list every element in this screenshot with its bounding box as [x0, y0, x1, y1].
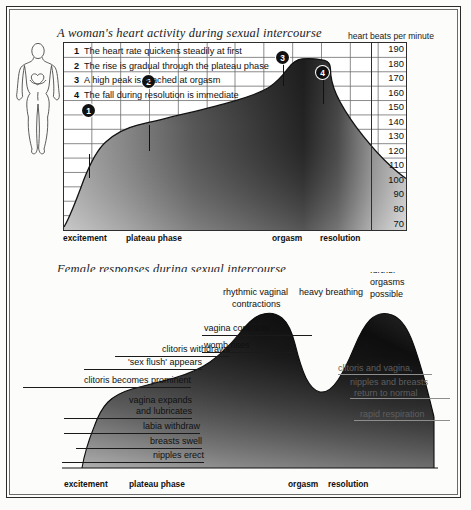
y-tick-100: 100	[388, 175, 404, 185]
anno-further-line3: possible	[370, 289, 403, 300]
anno-vagina-contracts: vagina contracts	[204, 323, 270, 334]
anno-nipples-erect: nipples erect	[62, 450, 204, 461]
bottom-phase-resolution: resolution	[328, 479, 368, 489]
legend-text-2: The rise is gradual through the plateau …	[84, 61, 269, 71]
anno-further-line2: orgasms	[370, 277, 405, 288]
callout-marker-4[interactable]: 4	[316, 66, 329, 79]
rule-sex-flush	[84, 369, 202, 370]
infographic-page: A woman's heart activity during sexual i…	[0, 0, 471, 510]
legend-text-4: The fall during resolution is immediate	[84, 90, 239, 100]
top-phase-orgasm: orgasm	[272, 233, 302, 243]
y-tick-170: 170	[388, 73, 404, 83]
top-chart-unit-label: heart beats per minute	[348, 31, 434, 41]
anno-rhythmic-line2: contractions	[232, 299, 281, 310]
y-tick-130: 130	[388, 131, 404, 141]
legend-text-1: The heart rate quickens steadily at firs…	[84, 46, 242, 56]
legend-text-3: A high peak is reached at orgasm	[84, 75, 220, 85]
rule-clitoris-prominent	[23, 387, 191, 388]
top-phase-excitement: excitement	[63, 233, 107, 243]
legend-item-4: 4 The fall during resolution is immediat…	[66, 90, 280, 105]
top-chart-title: A woman's heart activity during sexual i…	[57, 26, 322, 41]
y-tick-120: 120	[388, 146, 404, 156]
heart-rate-y-axis: 190 180 170 160 150 140 130 120 110 100 …	[371, 42, 407, 231]
legend-number-3: 3	[66, 75, 79, 85]
anno-rhythmic-line1: rhythmic vaginal	[223, 287, 288, 298]
marker-stem-1	[89, 154, 90, 178]
anno-heavy-breathing: heavy breathing	[299, 287, 363, 298]
anno-recovery-line1: clitoris and vagina,	[338, 363, 413, 374]
anno-breasts-swell: breasts swell	[76, 436, 202, 447]
anno-sex-flush: 'sex flush' appears	[84, 357, 202, 368]
y-tick-110: 110	[389, 160, 404, 170]
anno-vagina-expands: vagina expands	[64, 395, 192, 406]
rule-breasts-swell	[76, 448, 202, 449]
rule-nipples-erect	[62, 462, 204, 463]
anno-womb-rises: womb rises	[204, 340, 250, 351]
y-tick-80: 80	[394, 204, 404, 214]
woman-body-heart-icon	[12, 42, 64, 158]
rule-recovery-3	[354, 420, 450, 421]
bottom-phase-plateau: plateau phase	[129, 479, 185, 489]
y-tick-180: 180	[388, 59, 404, 69]
legend-item-3: 3 A high peak is reached at orgasm	[66, 75, 280, 90]
rule-vagina-expands	[64, 418, 192, 419]
y-tick-70: 70	[394, 219, 404, 229]
rule-vagina-contracts	[202, 335, 312, 336]
anno-clitoris-prominent: clitoris becomes prominent	[23, 375, 191, 386]
rule-recovery-1	[338, 374, 432, 375]
y-tick-150: 150	[388, 102, 404, 112]
top-chart-legend: 1 The heart rate quickens steadily at fi…	[66, 46, 280, 104]
top-phase-plateau: plateau phase	[126, 233, 182, 243]
y-axis-divider	[371, 42, 372, 231]
y-tick-160: 160	[388, 88, 404, 98]
y-tick-140: 140	[388, 117, 404, 127]
legend-item-1: 1 The heart rate quickens steadily at fi…	[66, 46, 280, 61]
anno-recovery-line3: return to normal	[354, 388, 418, 399]
bottom-phase-orgasm: orgasm	[288, 479, 318, 489]
anno-and-lubricates: and lubricates	[64, 406, 192, 417]
legend-item-2: 2 The rise is gradual through the platea…	[66, 61, 280, 76]
legend-number-4: 4	[66, 90, 79, 100]
anno-recovery-line4: rapid respiration	[360, 409, 425, 420]
anno-labia-withdraw: labia withdraw	[64, 421, 200, 432]
marker-stem-2	[149, 125, 150, 151]
anno-further-line1: further	[370, 272, 396, 276]
bottom-phase-excitement: excitement	[64, 479, 108, 489]
legend-number-2: 2	[66, 61, 79, 71]
y-tick-90: 90	[394, 189, 404, 199]
callout-marker-1[interactable]: 1	[82, 104, 95, 117]
top-phase-resolution: resolution	[320, 233, 360, 243]
female-response-chart: nipples erect breasts swell labia withdr…	[18, 272, 452, 486]
legend-number-1: 1	[66, 46, 79, 56]
anno-recovery-line2: nipples and breasts	[350, 377, 428, 388]
y-tick-190: 190	[388, 44, 404, 54]
rule-labia-withdraw	[64, 433, 200, 434]
